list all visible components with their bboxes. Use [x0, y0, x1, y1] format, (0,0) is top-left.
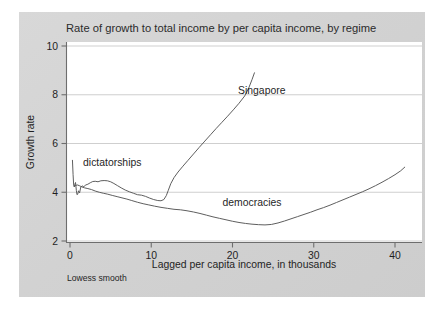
chart-title: Rate of growth to total income by per ca…	[66, 22, 376, 34]
y-tick-label-10: 10	[46, 41, 58, 52]
x-axis-tick-marks	[70, 243, 395, 248]
chart-canvas: 246810 010203040 Rate of growth to total…	[0, 0, 440, 317]
x-tick-label-0: 0	[67, 250, 73, 261]
y-tick-label-2: 2	[52, 236, 58, 247]
x-tick-label-40: 40	[389, 250, 401, 261]
y-tick-label-4: 4	[52, 187, 58, 198]
x-axis-title: Lagged per capita income, in thousands	[152, 259, 336, 270]
annotation-democracies: democracies	[223, 197, 282, 208]
annotation-singapore: Singapore	[238, 85, 286, 96]
y-axis-tick-marks	[62, 46, 67, 241]
y-axis-tick-labels: 246810	[46, 41, 58, 247]
y-axis-title: Growth rate	[25, 115, 36, 170]
lowess-smooth-note: Lowess smooth	[67, 273, 127, 283]
y-tick-label-6: 6	[52, 138, 58, 149]
figure-container: 246810 010203040 Rate of growth to total…	[0, 0, 440, 317]
y-tick-label-8: 8	[52, 89, 58, 100]
plot-area-background	[66, 42, 422, 242]
annotation-dictatorships: dictatorships	[83, 157, 141, 168]
